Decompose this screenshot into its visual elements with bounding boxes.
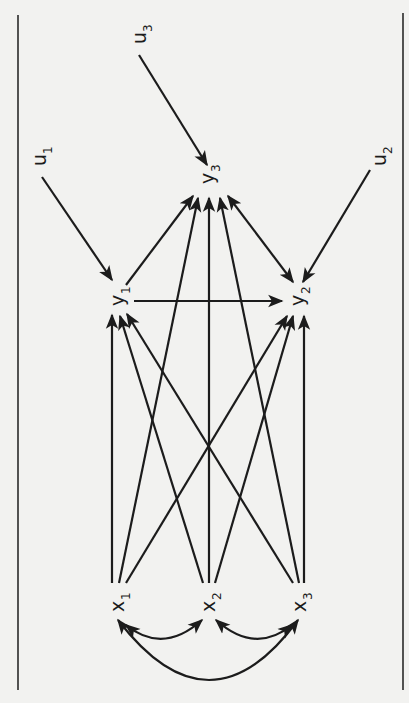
node-label: x [106,601,128,612]
nodes: u1u3u2y3y1y2x1x2x3 [28,24,395,612]
node-subscript: 1 [119,592,133,600]
arrow-u1-to-y1 [42,177,112,280]
node-subscript: 2 [210,592,224,600]
node-y3: y3 [196,164,223,184]
node-subscript: 2 [299,286,313,294]
node-subscript: 3 [141,24,155,32]
node-label: y [286,295,308,306]
arrow-x2-to-y2 [215,316,293,583]
node-x3: x3 [288,592,315,612]
arrow-u2-to-y2 [303,170,370,282]
node-u3: u3 [128,24,155,44]
node-label: y [196,173,218,184]
node-u2: u2 [368,146,395,166]
node-label: u [128,32,150,44]
node-subscript: 1 [41,146,55,154]
arc-x1-x2 [126,620,202,639]
node-label: u [368,154,390,166]
node-subscript: 3 [301,592,315,600]
node-label: x [288,601,310,612]
arrow-x2-to-y1 [120,316,203,583]
node-label: u [28,154,50,166]
arc-x1-x3 [118,620,298,680]
edges [42,55,370,583]
node-y2: y2 [286,286,313,306]
node-subscript: 3 [209,164,223,172]
arc-x2-x3 [216,620,292,639]
node-label: x [197,601,219,612]
node-y1: y1 [106,286,133,306]
path-diagram: u1u3u2y3y1y2x1x2x3 [0,0,409,703]
node-label: y [106,295,128,306]
node-subscript: 2 [381,146,395,154]
node-u1: u1 [28,146,55,166]
border-lines [18,13,403,690]
arrow-u3-to-y3 [139,55,207,165]
node-subscript: 1 [119,286,133,294]
arrow-x1-to-y2 [126,316,287,583]
arrow-y2-to-y3 [228,196,293,282]
correlation-arcs [118,620,298,680]
node-x2: x2 [197,592,224,612]
node-x1: x1 [106,592,133,612]
